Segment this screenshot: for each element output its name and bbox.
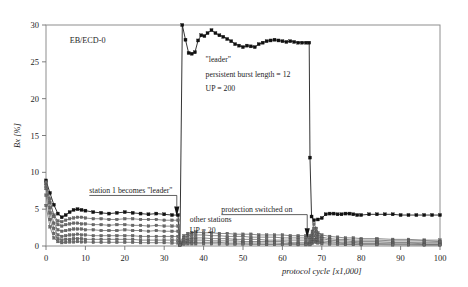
- series-marker: [80, 228, 83, 231]
- series-marker: [281, 243, 284, 246]
- series-marker: [139, 229, 142, 232]
- series-marker: [92, 241, 95, 244]
- series-marker: [163, 230, 166, 233]
- series-marker: [100, 241, 103, 244]
- series-marker: [305, 243, 308, 246]
- x-axis-title: protocol cycle [x1,000]: [281, 266, 362, 276]
- series-marker: [45, 204, 48, 207]
- series-marker: [310, 215, 313, 218]
- series-marker: [407, 214, 410, 217]
- series-marker: [391, 244, 394, 247]
- series-marker: [200, 34, 203, 37]
- series-marker: [210, 242, 213, 245]
- series-marker: [184, 38, 187, 41]
- series-marker: [376, 243, 379, 246]
- series-marker: [80, 237, 83, 240]
- series-marker: [383, 213, 386, 216]
- series-marker: [64, 238, 67, 241]
- series-marker: [60, 241, 63, 244]
- series-marker: [131, 224, 134, 227]
- series-marker: [80, 208, 83, 211]
- series-marker: [139, 212, 142, 215]
- series-marker: [187, 242, 190, 245]
- x-tick-label: 20: [121, 253, 130, 263]
- series-marker: [92, 238, 95, 241]
- series-marker: [72, 234, 75, 237]
- series-marker: [124, 228, 127, 231]
- series-marker: [64, 241, 67, 244]
- series-marker: [261, 41, 264, 44]
- series-marker: [80, 241, 83, 244]
- series-marker: [84, 228, 87, 231]
- series-marker: [124, 241, 127, 244]
- series-marker: [72, 222, 75, 225]
- series-marker: [131, 211, 134, 214]
- series-marker: [139, 235, 142, 238]
- series-marker: [171, 239, 174, 242]
- series-marker: [76, 237, 79, 240]
- series-marker: [100, 217, 103, 220]
- annotation-burst-length: persistent burst length = 12: [206, 70, 291, 79]
- series-marker: [49, 198, 52, 201]
- series-marker: [57, 223, 60, 226]
- series-marker: [375, 213, 378, 216]
- series-marker: [108, 241, 111, 244]
- y-tick-label: 20: [31, 94, 40, 104]
- series-marker: [108, 218, 111, 221]
- series-marker: [226, 243, 229, 246]
- series-marker: [64, 214, 67, 217]
- series-marker: [301, 41, 304, 44]
- series-marker: [308, 41, 311, 44]
- x-tick-label: 70: [318, 253, 327, 263]
- series-marker: [147, 230, 150, 233]
- series-marker: [60, 220, 63, 223]
- series-marker: [163, 241, 166, 244]
- series-marker: [131, 234, 134, 237]
- series-marker: [147, 218, 150, 221]
- series-marker: [155, 212, 158, 215]
- series-marker: [190, 242, 193, 245]
- series-marker: [269, 39, 272, 42]
- series-marker: [45, 187, 48, 190]
- series-marker: [100, 238, 103, 241]
- y-tick-label: 25: [31, 57, 40, 67]
- series-marker: [100, 234, 103, 237]
- x-tick-label: 100: [434, 253, 447, 263]
- series-marker: [202, 242, 205, 245]
- series-marker: [179, 244, 182, 247]
- series-marker: [249, 45, 252, 48]
- series-marker: [155, 235, 158, 238]
- protocol-cycle-chart: 0510152025300102030405060708090100protoc…: [0, 0, 468, 287]
- series-marker: [68, 238, 71, 241]
- series-marker: [57, 240, 60, 243]
- series-marker: [308, 156, 311, 159]
- series-marker: [348, 212, 351, 215]
- series-marker: [116, 238, 119, 241]
- series-marker: [324, 213, 327, 216]
- series-marker: [57, 234, 60, 237]
- series-marker: [171, 225, 174, 228]
- series-marker: [163, 213, 166, 216]
- series-marker: [68, 234, 71, 237]
- series-marker: [423, 214, 426, 217]
- series-marker: [289, 243, 292, 246]
- series-marker: [80, 234, 83, 237]
- series-marker: [147, 241, 150, 244]
- series-marker: [171, 219, 174, 222]
- series-marker: [84, 209, 87, 212]
- series-marker: [352, 243, 355, 246]
- series-marker: [336, 243, 339, 246]
- series-marker: [72, 241, 75, 244]
- series-marker: [64, 234, 67, 237]
- series-marker: [163, 239, 166, 242]
- series-marker: [415, 214, 418, 217]
- series-marker: [64, 223, 67, 226]
- series-marker: [163, 219, 166, 222]
- series-marker: [273, 38, 276, 41]
- series-marker: [124, 238, 127, 241]
- series-marker: [116, 229, 119, 232]
- series-marker: [265, 40, 268, 43]
- y-tick-label: 5: [35, 204, 39, 214]
- series-marker: [139, 241, 142, 244]
- series-marker: [297, 41, 300, 44]
